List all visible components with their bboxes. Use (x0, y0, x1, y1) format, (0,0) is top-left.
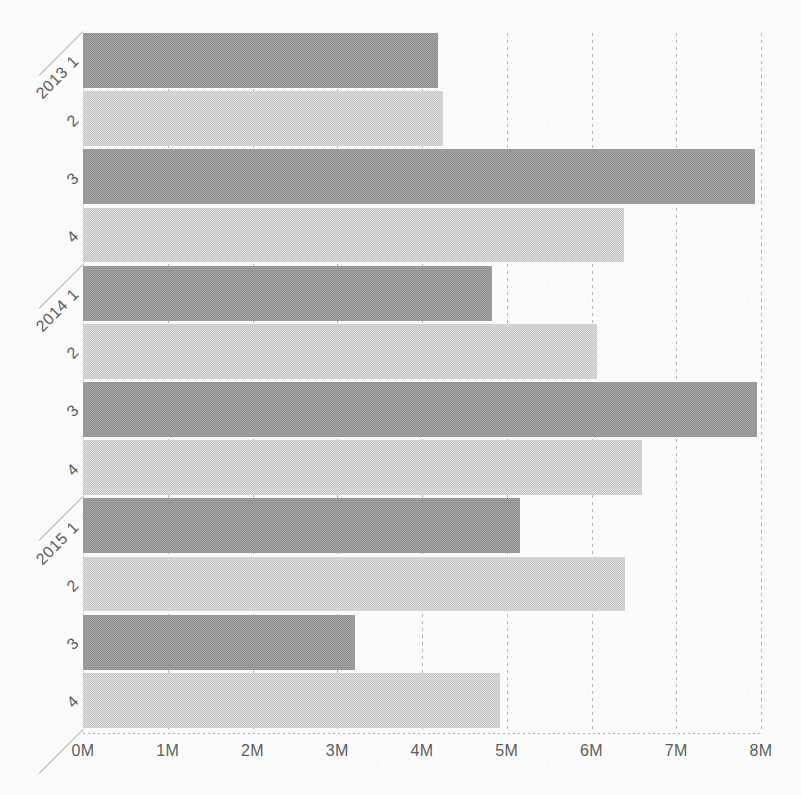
x-tick-6M: 6M (580, 742, 603, 760)
x-tick-2M: 2M (241, 742, 264, 760)
bar-2015-q4[interactable] (83, 673, 500, 728)
bar-2014-q4[interactable] (83, 440, 642, 495)
bar-2015-q3[interactable] (83, 615, 355, 670)
x-tick-5M: 5M (495, 742, 518, 760)
x-tick-8M: 8M (749, 742, 772, 760)
bar-2014-q1[interactable] (83, 266, 492, 321)
bar-2014-q3[interactable] (83, 382, 757, 437)
bar-2013-q2[interactable] (83, 91, 443, 146)
x-tick-4M: 4M (410, 742, 433, 760)
bar-2014-q2[interactable] (83, 324, 597, 379)
x-tick-3M: 3M (326, 742, 349, 760)
x-tick-1M: 1M (156, 742, 179, 760)
bar-2015-q2[interactable] (83, 557, 625, 612)
bar-2013-q4[interactable] (83, 208, 624, 263)
x-tick-0M: 0M (71, 742, 94, 760)
x-tick-7M: 7M (665, 742, 688, 760)
plot-area (0, 0, 801, 795)
bar-2015-q1[interactable] (83, 498, 520, 553)
x-axis-line (83, 733, 761, 734)
bar-2013-q1[interactable] (83, 33, 438, 88)
bar-2013-q3[interactable] (83, 149, 755, 204)
bar-chart: 0M1M2M3M4M5M6M7M8M 201312342014123420151… (0, 0, 801, 795)
